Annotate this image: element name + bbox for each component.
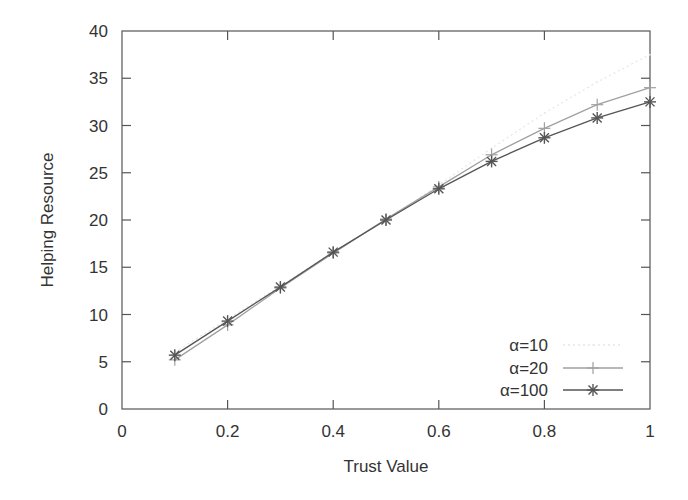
legend-label: α=20 xyxy=(509,359,548,378)
dot-marker-icon xyxy=(596,81,598,83)
star-marker-icon xyxy=(587,384,599,396)
star-marker-icon xyxy=(433,183,445,195)
legend-label: α=100 xyxy=(500,381,548,400)
dot-marker-icon xyxy=(649,54,651,56)
star-marker-icon xyxy=(380,214,392,226)
legend-item: α=10 xyxy=(509,336,623,355)
series-line xyxy=(175,102,650,355)
star-marker-icon xyxy=(486,155,498,167)
star-marker-icon xyxy=(222,315,234,327)
series-1 xyxy=(169,82,656,366)
star-marker-icon xyxy=(591,112,603,124)
legend: α=10α=20α=100 xyxy=(500,336,623,400)
x-axis: 00.20.40.60.81 xyxy=(117,31,654,441)
series-2 xyxy=(169,96,656,361)
series-layer xyxy=(169,54,656,366)
x-tick-label: 0.8 xyxy=(533,422,557,441)
y-tick-label: 40 xyxy=(89,22,108,41)
x-tick-label: 0.4 xyxy=(321,422,345,441)
y-tick-label: 15 xyxy=(89,258,108,277)
x-tick-label: 0.6 xyxy=(427,422,451,441)
y-tick-label: 5 xyxy=(99,353,108,372)
star-marker-icon xyxy=(169,349,181,361)
x-axis-label: Trust Value xyxy=(343,457,428,476)
y-tick-label: 10 xyxy=(89,306,108,325)
dot-marker-icon xyxy=(544,112,546,114)
star-marker-icon xyxy=(327,246,339,258)
y-tick-label: 20 xyxy=(89,211,108,230)
x-tick-label: 1 xyxy=(645,422,654,441)
legend-item: α=20 xyxy=(509,359,623,378)
dot-marker-icon xyxy=(491,147,493,149)
star-marker-icon xyxy=(538,132,550,144)
dot-marker-icon xyxy=(592,344,594,346)
y-tick-label: 30 xyxy=(89,117,108,136)
chart-container: 0510152025303540 00.20.40.60.81 Trust Va… xyxy=(0,0,688,500)
y-axis-label: Helping Resource xyxy=(38,152,57,287)
y-tick-label: 35 xyxy=(89,69,108,88)
x-tick-label: 0 xyxy=(117,422,126,441)
y-tick-label: 0 xyxy=(99,400,108,419)
series-line xyxy=(175,88,650,360)
y-tick-label: 25 xyxy=(89,164,108,183)
line-chart: 0510152025303540 00.20.40.60.81 Trust Va… xyxy=(0,0,688,500)
legend-item: α=100 xyxy=(500,381,623,400)
star-marker-icon xyxy=(644,96,656,108)
star-marker-icon xyxy=(274,281,286,293)
x-tick-label: 0.2 xyxy=(216,422,240,441)
legend-label: α=10 xyxy=(509,336,548,355)
